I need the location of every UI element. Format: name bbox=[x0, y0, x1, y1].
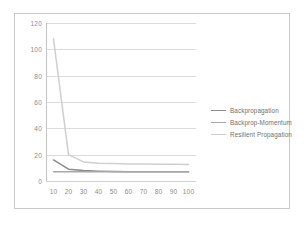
y-tick-20: 20 bbox=[34, 151, 42, 158]
x-tick-90: 90 bbox=[166, 188, 181, 202]
series-line-resilient-propagation bbox=[54, 39, 189, 165]
y-tick-40: 40 bbox=[34, 125, 42, 132]
y-tick-120: 120 bbox=[31, 20, 42, 27]
chart-frame: 020406080100120 102030405060708090100 Ba… bbox=[14, 13, 290, 209]
x-tick-20: 20 bbox=[61, 188, 76, 202]
x-tick-10: 10 bbox=[46, 188, 61, 202]
x-axis-tick-labels: 102030405060708090100 bbox=[46, 188, 196, 202]
y-tick-100: 100 bbox=[31, 46, 42, 53]
legend-label-backpropagation: Backpropagation bbox=[230, 107, 279, 114]
x-tick-70: 70 bbox=[136, 188, 151, 202]
x-tick-30: 30 bbox=[76, 188, 91, 202]
gridline-0 bbox=[46, 181, 196, 182]
legend-label-resilient-propagation: Resilient Propagation bbox=[230, 131, 292, 138]
y-tick-0: 0 bbox=[38, 178, 42, 185]
series-lines bbox=[46, 23, 196, 181]
y-tick-60: 60 bbox=[34, 99, 42, 106]
legend-swatch-backpropagation bbox=[211, 110, 226, 111]
legend-swatch-resilient-propagation bbox=[211, 134, 226, 135]
x-tick-40: 40 bbox=[91, 188, 106, 202]
legend-item-resilient-propagation: Resilient Propagation bbox=[211, 128, 303, 140]
plot-area: 020406080100120 bbox=[46, 23, 196, 181]
x-tick-50: 50 bbox=[106, 188, 121, 202]
series-line-backpropagation bbox=[54, 160, 189, 172]
legend-label-backprop-momentum: Backprop-Momentum bbox=[230, 119, 292, 126]
chart-legend: Backpropagation Backprop-Momentum Resili… bbox=[211, 104, 303, 140]
x-tick-80: 80 bbox=[151, 188, 166, 202]
legend-item-backpropagation: Backpropagation bbox=[211, 104, 303, 116]
legend-item-backprop-momentum: Backprop-Momentum bbox=[211, 116, 303, 128]
legend-swatch-backprop-momentum bbox=[211, 122, 226, 123]
x-tick-100: 100 bbox=[181, 188, 196, 202]
y-tick-80: 80 bbox=[34, 72, 42, 79]
x-tick-60: 60 bbox=[121, 188, 136, 202]
